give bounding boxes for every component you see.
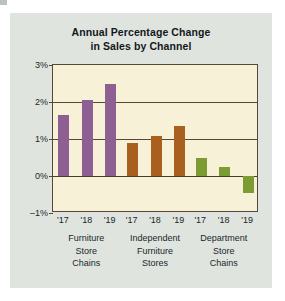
y-axis-tick-label: 2% — [35, 97, 48, 107]
bar — [196, 158, 207, 177]
x-axis-tick-label: '17 — [57, 215, 69, 225]
group-label-line: Furniture — [68, 232, 104, 245]
bar — [105, 84, 116, 177]
bar — [219, 167, 230, 176]
y-tick-mark — [49, 176, 53, 177]
x-axis-tick-label: '18 — [149, 215, 161, 225]
group-label-line: Stores — [130, 257, 180, 270]
group-label-line: Store — [68, 245, 104, 258]
chart-title-line-2: in Sales by Channel — [10, 39, 272, 53]
x-axis-group-labels: FurnitureStoreChainsIndependentFurniture… — [52, 232, 258, 282]
group-label-line: Department — [200, 232, 247, 245]
group-label-line: Independent — [130, 232, 180, 245]
bar — [243, 176, 254, 193]
bar — [127, 143, 138, 176]
x-axis-tick-label: '18 — [80, 215, 92, 225]
y-axis-tick-label: 0% — [35, 171, 48, 181]
gridline-0 — [53, 176, 257, 177]
group-label-line: Chains — [200, 257, 247, 270]
x-axis-tick-label: '19 — [241, 215, 253, 225]
plot-area: 3%2%1%0%–1% — [52, 64, 258, 212]
x-axis-tick-label: '17 — [126, 215, 138, 225]
x-axis-tick-label: '17 — [194, 215, 206, 225]
y-tick-mark — [49, 65, 53, 66]
group-label-line: Chains — [68, 257, 104, 270]
chart-title: Annual Percentage Change in Sales by Cha… — [10, 25, 272, 53]
y-axis-tick-label: 3% — [35, 60, 48, 70]
x-axis-tick-label: '18 — [218, 215, 230, 225]
x-axis-tick-label: '19 — [173, 215, 185, 225]
y-tick-mark — [49, 213, 53, 214]
y-tick-mark — [49, 139, 53, 140]
scan-artifact — [0, 0, 7, 5]
bar — [58, 115, 69, 176]
group-label: IndependentFurnitureStores — [130, 232, 180, 270]
y-axis-tick-label: 1% — [35, 134, 48, 144]
x-axis-tick-label: '19 — [104, 215, 116, 225]
bar — [82, 100, 93, 176]
group-label-line: Furniture — [130, 245, 180, 258]
chart-panel: Annual Percentage Change in Sales by Cha… — [10, 13, 272, 288]
group-label: DepartmentStoreChains — [200, 232, 247, 270]
y-tick-mark — [49, 102, 53, 103]
bar — [151, 136, 162, 176]
y-axis-tick-label: –1% — [30, 208, 48, 218]
bar — [174, 126, 185, 176]
group-label-line: Store — [200, 245, 247, 258]
group-label: FurnitureStoreChains — [68, 232, 104, 270]
x-axis-tick-labels: '17'18'19'17'18'19'17'18'19 — [52, 215, 258, 229]
chart-title-line-1: Annual Percentage Change — [72, 26, 211, 38]
